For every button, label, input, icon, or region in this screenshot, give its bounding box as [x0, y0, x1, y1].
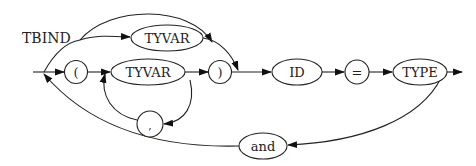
svg-text:TYVAR: TYVAR — [145, 31, 191, 46]
svg-text:=: = — [352, 65, 363, 80]
edge-type-and — [288, 78, 441, 145]
node-and: and — [239, 133, 287, 159]
node-type: TYPE — [393, 59, 447, 85]
node-lparen: ( — [65, 61, 88, 84]
svg-text:,: , — [148, 119, 152, 132]
svg-text:(: ( — [73, 65, 78, 80]
node-id: ID — [272, 59, 322, 85]
node-rparen: ) — [209, 61, 232, 84]
edge-tyvar-comma — [164, 80, 192, 124]
edges — [33, 14, 462, 146]
edge-start-tyvar-top — [80, 36, 130, 40]
tbind-syntax-diagram: TBIND ( — [0, 0, 476, 166]
node-tyvar-top: TYVAR — [131, 25, 203, 51]
diagram-title: TBIND — [22, 30, 71, 46]
svg-text:ID: ID — [289, 65, 305, 80]
svg-text:TYPE: TYPE — [402, 65, 438, 80]
node-comma: , — [137, 111, 163, 137]
svg-text:TYVAR: TYVAR — [126, 65, 172, 80]
svg-text:and: and — [251, 139, 275, 154]
node-tyvar-mid: TYVAR — [111, 59, 185, 85]
node-eq: = — [345, 60, 369, 84]
svg-text:): ) — [217, 65, 222, 80]
